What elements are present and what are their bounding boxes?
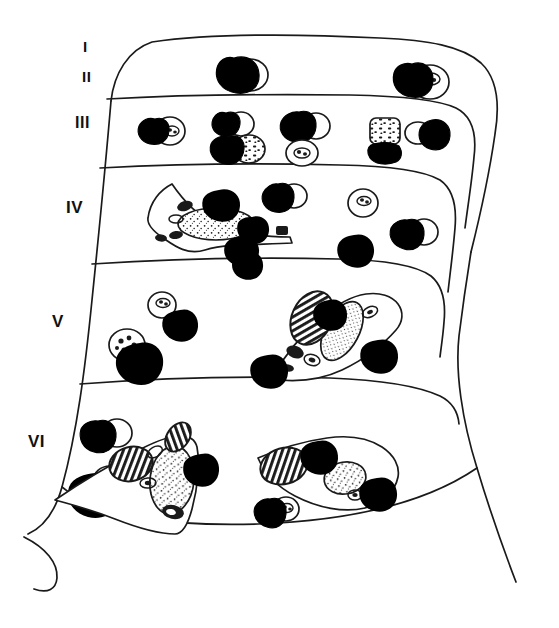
layer-label-5: V — [52, 312, 64, 332]
layer-label-1: I — [83, 38, 88, 55]
layer-label-2: II — [82, 68, 91, 85]
layer-label-6: VI — [28, 432, 45, 452]
pyramidal-neuron-layer-IV — [148, 184, 374, 280]
cell-cluster-layer-III — [138, 111, 450, 166]
outline-right — [458, 252, 516, 582]
cell-cluster-layer-I — [216, 57, 449, 99]
layer-label-4: IV — [66, 198, 83, 218]
sulcus-arc — [24, 537, 57, 591]
cortex-drawing — [0, 0, 559, 628]
cell-cluster-layer-VI — [55, 418, 398, 534]
histology-figure: I II III IV V VI — [0, 0, 559, 628]
cell-cluster-layer-V — [109, 284, 402, 389]
layer-label-3: III — [75, 114, 90, 132]
